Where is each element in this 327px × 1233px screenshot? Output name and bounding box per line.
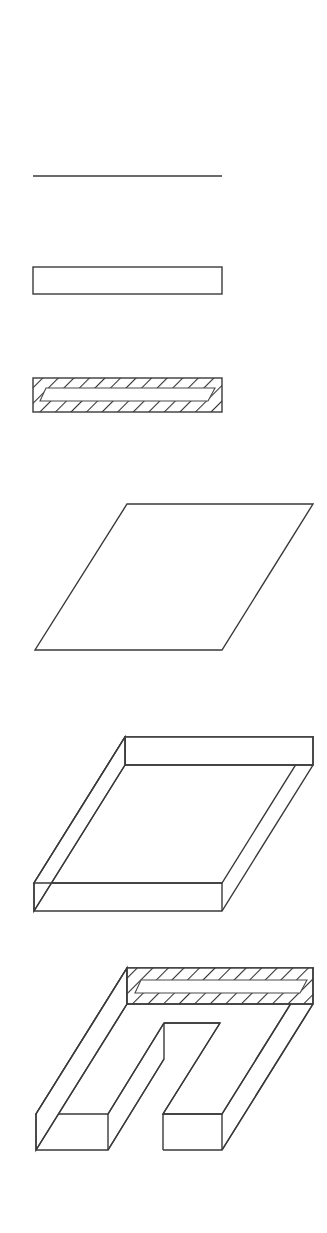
figure-3-hatched-section-bar	[33, 378, 222, 412]
figure-2-outline-rectangle	[33, 267, 222, 294]
construction-sequence-canvas	[0, 0, 327, 1233]
outline-rectangle-body	[33, 267, 222, 294]
figure-sheet	[0, 0, 327, 1233]
slab-back-face	[125, 737, 313, 765]
